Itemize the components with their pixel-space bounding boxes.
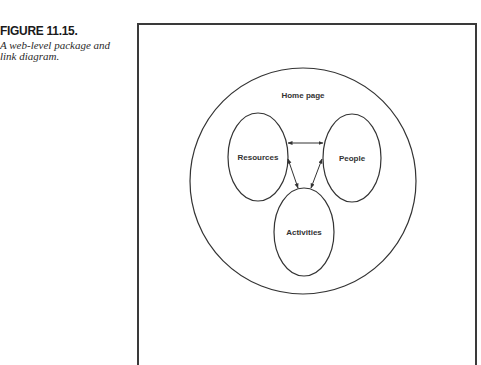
- people-label: People: [339, 154, 366, 163]
- link-resources-activities: [288, 159, 298, 188]
- home-page-package: Home page: [190, 68, 416, 294]
- activities-label: Activities: [286, 228, 322, 237]
- home-page-label: Home page: [281, 91, 325, 100]
- link-people-activities: [311, 159, 322, 188]
- resources-label: Resources: [238, 153, 279, 162]
- resources-node: Resources: [228, 113, 288, 201]
- activities-node: Activities: [274, 188, 334, 276]
- people-node: People: [323, 114, 381, 202]
